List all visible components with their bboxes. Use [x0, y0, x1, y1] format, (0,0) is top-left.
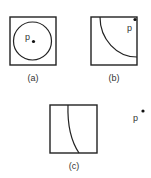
panel-c: (c) p: [50, 105, 145, 171]
square-c: [50, 105, 97, 153]
point-label-a: p: [25, 32, 30, 42]
point-a: [32, 40, 35, 43]
diagram-canvas: p (a) p (b) (c) p: [0, 0, 151, 178]
point-label-c: p: [133, 113, 138, 123]
caption-c: (c): [69, 161, 80, 171]
point-label-b: p: [127, 23, 132, 33]
panel-b: p (b): [91, 17, 137, 83]
caption-a: (a): [28, 73, 39, 83]
caption-b: (b): [109, 73, 120, 83]
panel-a: p (a): [10, 17, 56, 83]
point-c: [141, 109, 144, 112]
curve-c: [68, 105, 79, 153]
point-b: [133, 18, 136, 21]
